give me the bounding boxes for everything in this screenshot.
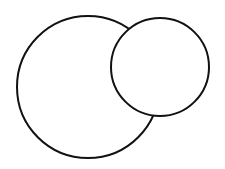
overlapping-circles-diagram [0,0,225,169]
small-circle [111,18,209,116]
